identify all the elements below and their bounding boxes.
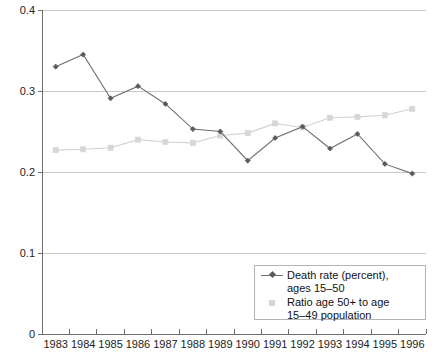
data-point-marker — [355, 114, 360, 119]
x-tick-label: 1991 — [263, 338, 287, 350]
x-tick-label: 1994 — [345, 338, 369, 350]
y-tick-label: 0 — [29, 328, 35, 340]
y-tick-label: 0.2 — [20, 166, 35, 178]
x-axis-tick-marks — [42, 329, 426, 334]
diamond-line-marker-icon — [259, 269, 287, 282]
data-point-marker — [108, 145, 113, 150]
legend-item-death-rate: Death rate (percent), ages 15–50 — [255, 269, 425, 295]
data-point-marker — [163, 139, 168, 144]
x-tick-label: 1995 — [373, 338, 397, 350]
line-chart: 00.10.20.30.4 19831984198519861987198819… — [0, 0, 435, 358]
legend-item-ratio: Ratio age 50+ to age 15–49 population — [255, 296, 425, 322]
x-tick-label: 1984 — [71, 338, 95, 350]
legend-label-ratio: Ratio age 50+ to age 15–49 population — [287, 296, 389, 322]
data-point-marker — [382, 113, 387, 118]
x-tick-label: 1985 — [98, 338, 122, 350]
data-point-marker — [81, 147, 86, 152]
x-axis-tick-labels: 1983198419851986198719881989199019911992… — [43, 338, 424, 350]
chart-legend: Death rate (percent), ages 15–50 Ratio a… — [254, 265, 426, 320]
data-point-marker — [108, 96, 113, 101]
data-point-marker — [245, 131, 250, 136]
x-tick-label: 1989 — [208, 338, 232, 350]
square-marker-icon — [259, 296, 287, 309]
y-axis-tick-labels: 00.10.20.30.4 — [20, 4, 35, 340]
y-tick-label: 0.3 — [20, 85, 35, 97]
x-tick-label: 1992 — [290, 338, 314, 350]
data-point-marker — [53, 64, 58, 69]
data-point-marker — [410, 106, 415, 111]
x-tick-label: 1990 — [235, 338, 259, 350]
data-point-marker — [327, 115, 332, 120]
y-tick-label: 0.4 — [20, 4, 35, 16]
legend-label-death-rate: Death rate (percent), ages 15–50 — [287, 269, 389, 295]
x-tick-label: 1996 — [400, 338, 424, 350]
data-point-marker — [273, 121, 278, 126]
x-tick-label: 1983 — [43, 338, 67, 350]
x-tick-label: 1988 — [181, 338, 205, 350]
x-tick-label: 1993 — [318, 338, 342, 350]
data-point-marker — [190, 140, 195, 145]
x-tick-label: 1986 — [126, 338, 150, 350]
data-point-marker — [53, 148, 58, 153]
data-point-marker — [81, 52, 86, 57]
y-tick-label: 0.1 — [20, 247, 35, 259]
data-point-marker — [135, 137, 140, 142]
series-death-rate — [53, 52, 415, 176]
x-tick-label: 1987 — [153, 338, 177, 350]
